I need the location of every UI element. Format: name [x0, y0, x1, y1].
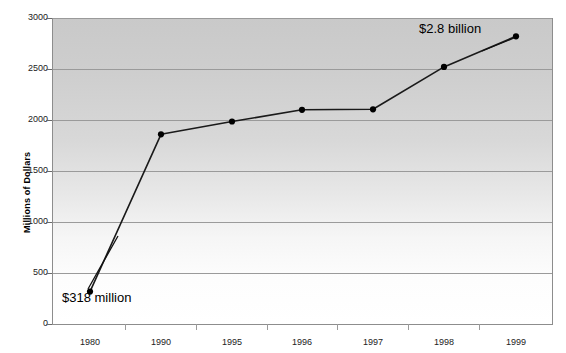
- annotation-28-billion: $2.8 billion: [419, 21, 481, 36]
- y-axis-ticks: [46, 19, 52, 325]
- data-point-1995: [229, 118, 235, 124]
- data-point-1998: [441, 64, 447, 70]
- data-point-1996: [299, 107, 305, 113]
- data-point-1990: [158, 131, 164, 137]
- annotation-318-million: $318 million: [62, 290, 131, 305]
- line-chart: Millions of Dollars 3000 2500 2000 1500 …: [0, 0, 566, 353]
- data-point-1997: [370, 106, 376, 112]
